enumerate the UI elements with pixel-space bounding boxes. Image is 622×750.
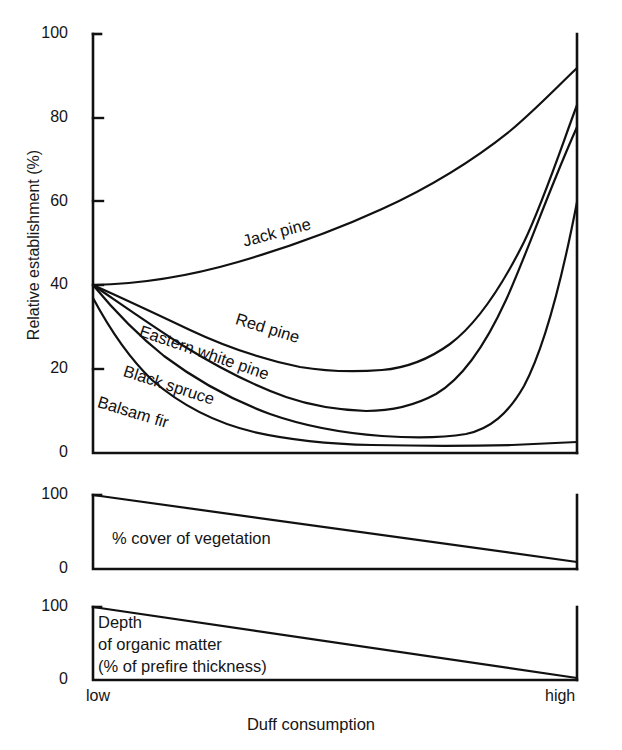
curve-eastern-white-pine [93,127,577,411]
curve-jack-pine [93,68,577,285]
curve-red-pine [93,105,577,371]
plot-svg [0,0,622,750]
figure-container: Relative establishment (%) 100 80 60 40 … [0,0,622,750]
panel1-ticks [93,118,103,369]
curve-organic-matter-depth [93,607,577,678]
curve-balsam-fir [93,298,577,446]
curve-vegetation-cover [93,495,577,562]
